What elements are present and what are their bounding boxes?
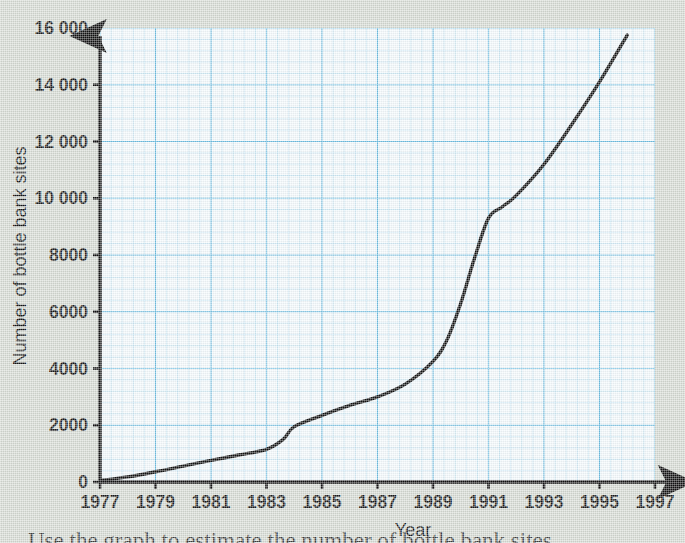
x-tick-label: 1995 bbox=[580, 492, 619, 512]
x-tick-label: 1993 bbox=[525, 492, 564, 512]
y-tick-label: 16 000 bbox=[34, 18, 88, 38]
x-axis-tick-labels: 1977197919811983198519871989199119931995… bbox=[81, 492, 675, 512]
x-tick-label: 1987 bbox=[358, 492, 397, 512]
x-tick-label: 1983 bbox=[247, 492, 286, 512]
y-tick-label: 12 000 bbox=[34, 132, 88, 152]
x-tick-label: 1997 bbox=[636, 492, 675, 512]
y-tick-label: 8000 bbox=[49, 245, 88, 265]
x-tick-label: 1985 bbox=[303, 492, 342, 512]
x-tick-label: 1979 bbox=[136, 492, 175, 512]
y-axis-title: Number of bottle bank sites bbox=[10, 146, 30, 365]
y-tick-label: 14 000 bbox=[34, 75, 88, 95]
y-tick-label: 0 bbox=[78, 472, 88, 492]
x-tick-label: 1981 bbox=[192, 492, 231, 512]
y-tick-label: 2000 bbox=[49, 415, 88, 435]
figure-caption: Use the graph to estimate the number of … bbox=[28, 528, 552, 543]
y-tick-label: 10 000 bbox=[34, 188, 88, 208]
x-tick-label: 1989 bbox=[414, 492, 453, 512]
y-tick-label: 6000 bbox=[49, 302, 88, 322]
x-tick-label: 1991 bbox=[469, 492, 508, 512]
x-tick-label: 1977 bbox=[81, 492, 120, 512]
chart-root: 0200040006000800010 00012 00014 00016 00… bbox=[0, 0, 685, 543]
line-chart: 0200040006000800010 00012 00014 00016 00… bbox=[0, 0, 685, 543]
y-tick-label: 4000 bbox=[49, 359, 88, 379]
y-axis-tick-labels: 0200040006000800010 00012 00014 00016 00… bbox=[34, 18, 88, 492]
